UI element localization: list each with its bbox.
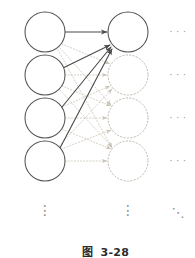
edge-in3-out2 [62,86,110,107]
row-ellipsis-1: · · · [170,27,187,37]
neural-network-diagram: · · ·· · ·· · ·· · ·⋮⋮⋱ [0,0,195,258]
left-column-ellipsis: ⋮ [38,202,52,218]
input-node-2 [25,55,65,95]
output-node-2 [108,55,148,95]
input-node-4 [25,141,65,181]
edge-in1-out2 [62,44,110,64]
figure-caption: 图3-28 [0,230,195,258]
row-ellipsis-3: · · · [170,113,187,123]
caption-number: 3-28 [101,246,130,258]
edge-in3-out4 [62,129,111,149]
corner-ellipsis: ⋱ [172,205,185,220]
output-node-4 [108,141,148,181]
output-node-3 [108,98,148,138]
output-node-1 [108,12,148,52]
edge-in4-out1 [60,49,112,148]
row-ellipsis-4: · · · [170,156,187,166]
row-ellipsis-2: · · · [170,70,187,80]
figure-container: · · ·· · ·· · ·· · ·⋮⋮⋱ 图3-28 [0,0,195,258]
highlighted-edges-group [60,32,112,148]
input-node-3 [25,98,65,138]
inactive-output-nodes-group [108,55,148,181]
caption-label: 图 [82,246,93,258]
edge-in2-out3 [62,86,111,106]
input-node-1 [25,12,65,52]
right-column-ellipsis: ⋮ [121,202,135,218]
